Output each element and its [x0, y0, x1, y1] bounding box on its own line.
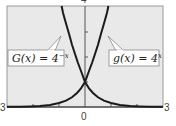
y-max-label: 4: [81, 0, 87, 5]
x-zero-label: 0: [81, 111, 87, 122]
exponential-chart: G(x) = 4−x g(x) = 4x 3 0 3 4: [0, 0, 176, 126]
x-min-label: 3: [0, 102, 6, 113]
x-max-label: 3: [164, 102, 170, 113]
label-g: g(x) = 4x: [113, 52, 162, 65]
